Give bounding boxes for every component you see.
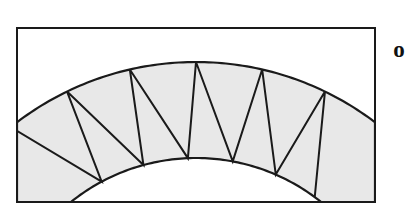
figure-canvas (0, 0, 419, 223)
figure-root: o (0, 0, 419, 223)
center-point-label: o (386, 36, 412, 64)
